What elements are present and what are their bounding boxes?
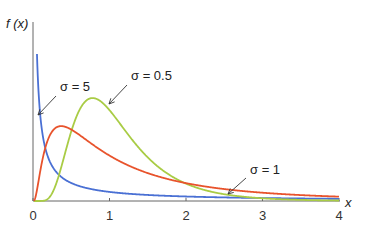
series-line-sigma-5: [37, 54, 339, 199]
annotation-label: σ = 1: [250, 162, 280, 177]
x-tick-label: 0: [29, 208, 36, 223]
annotation-arrow: [109, 85, 127, 104]
chart: f (x) x 01234 σ = 5σ = 0.5σ = 1: [0, 0, 371, 232]
annotation-label: σ = 5: [60, 79, 90, 94]
x-axis-label: x: [344, 195, 352, 210]
y-axis-label: f (x): [6, 16, 28, 31]
x-tick-label: 3: [259, 208, 266, 223]
annotation-label: σ = 0.5: [131, 68, 172, 83]
x-tick-label: 2: [182, 208, 189, 223]
annotation-arrow: [38, 96, 56, 115]
x-tick-label: 4: [335, 208, 342, 223]
x-tick-label: 1: [106, 208, 113, 223]
series-line-sigma-1: [34, 126, 339, 201]
